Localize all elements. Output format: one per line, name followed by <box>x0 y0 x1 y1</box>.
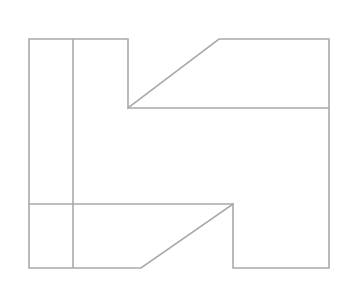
technical-drawing <box>0 0 352 283</box>
internal-lines <box>29 39 329 268</box>
outline-shape <box>29 39 329 268</box>
